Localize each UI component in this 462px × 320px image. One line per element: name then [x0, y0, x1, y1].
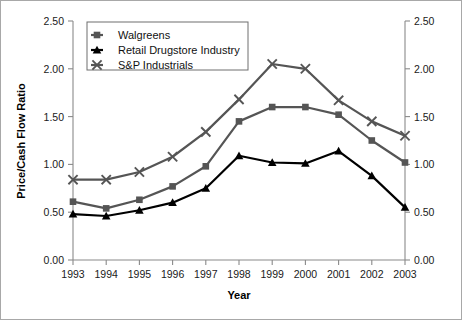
legend-item-label: Retail Drugstore Industry — [118, 44, 240, 56]
x-tick-label: 1998 — [227, 268, 251, 280]
data-marker-square — [269, 104, 276, 111]
data-marker-square — [203, 163, 210, 170]
x-tick-label: 1993 — [61, 268, 85, 280]
legend-item-label: S&P Industrials — [118, 59, 194, 71]
x-tick-label: 2002 — [360, 268, 384, 280]
data-marker-triangle — [334, 147, 343, 155]
series-line — [73, 151, 405, 216]
legend-item-label: Walgreens — [118, 29, 171, 41]
data-marker-square — [302, 104, 309, 111]
series-retail-drugstore-industry — [69, 147, 410, 220]
x-tick-label: 1995 — [128, 268, 152, 280]
y-tick-label-left: 1.00 — [44, 158, 65, 170]
x-axis-title: Year — [227, 289, 251, 301]
x-tick-label: 1994 — [95, 268, 119, 280]
data-marker-square — [335, 111, 342, 118]
x-tick-label: 2000 — [294, 268, 318, 280]
data-marker-square — [402, 159, 409, 166]
x-axis-ticks: 1993199419951996199719981999200020012002… — [61, 260, 417, 280]
y-axis-right-ticks: 0.000.501.001.502.002.50 — [405, 15, 435, 266]
y-tick-label-right: 1.50 — [414, 111, 435, 123]
data-marker-square — [169, 183, 176, 190]
x-tick-label: 2001 — [327, 268, 351, 280]
data-marker-square — [236, 118, 243, 125]
y-tick-label-right: 1.00 — [414, 158, 435, 170]
data-marker-square — [103, 205, 110, 212]
y-tick-label-left: 2.00 — [44, 63, 65, 75]
y-tick-label-right: 0.50 — [414, 206, 435, 218]
y-tick-label-right: 0.00 — [414, 254, 435, 266]
y-tick-label-right: 2.50 — [414, 15, 435, 27]
legend: WalgreensRetail Drugstore IndustryS&P In… — [87, 22, 248, 71]
y-tick-label-left: 0.50 — [44, 206, 65, 218]
price-cash-flow-ratio-line-chart: 0.000.501.001.502.002.50 0.000.501.001.5… — [1, 1, 462, 320]
y-tick-label-left: 2.50 — [44, 15, 65, 27]
x-tick-label: 1996 — [161, 268, 185, 280]
data-marker-square — [369, 137, 376, 144]
y-axis-left-ticks: 0.000.501.001.502.002.50 — [44, 15, 73, 266]
y-tick-label-right: 2.00 — [414, 63, 435, 75]
x-tick-label: 1997 — [194, 268, 218, 280]
chart-figure: 0.000.501.001.502.002.50 0.000.501.001.5… — [0, 0, 462, 320]
data-marker-square — [70, 198, 77, 205]
y-tick-label-left: 0.00 — [44, 254, 65, 266]
data-series-layer — [68, 59, 409, 219]
y-tick-label-left: 1.50 — [44, 111, 65, 123]
x-tick-label: 1999 — [261, 268, 285, 280]
x-tick-label: 2003 — [393, 268, 417, 280]
data-marker-square — [136, 196, 143, 203]
data-marker-square — [94, 32, 101, 39]
y-axis-title: Price/Cash Flow Ratio — [15, 83, 27, 199]
